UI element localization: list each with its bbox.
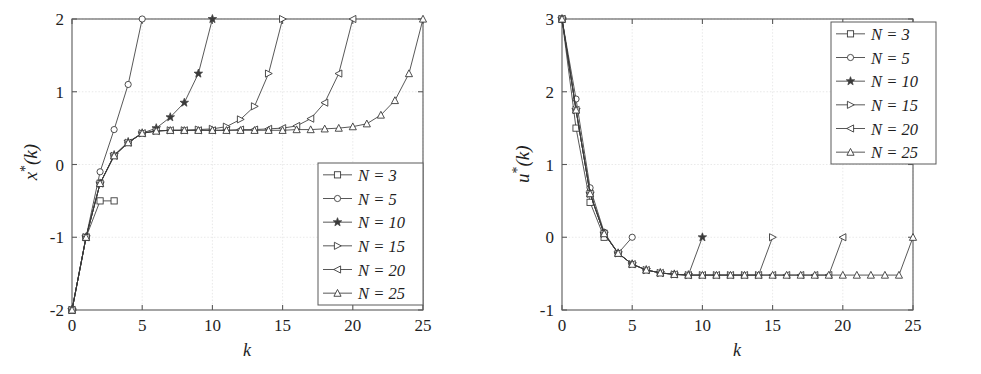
- series-line: [72, 201, 114, 310]
- marker-circle-icon: [847, 54, 853, 60]
- y-label-arg: (k): [512, 145, 533, 166]
- marker-star-icon: [180, 98, 189, 106]
- x-tick-label: 25: [415, 316, 432, 335]
- legend-label: N = 15: [870, 96, 918, 115]
- legend-label: N = 10: [357, 213, 406, 232]
- y-tick-label: 3: [546, 10, 555, 29]
- legend-label: N = 20: [870, 120, 919, 139]
- marker-circle-icon: [334, 195, 340, 201]
- marker-square-icon: [97, 198, 103, 204]
- x-tick-label: 5: [628, 316, 637, 335]
- y-label-base: u: [512, 173, 533, 183]
- x-axis-label-left: k: [172, 340, 322, 361]
- x-axis-label-right: k: [662, 340, 812, 361]
- marker-circle-icon: [139, 16, 145, 22]
- marker-triangle-left-icon: [335, 70, 342, 77]
- figure-root: 0510152025-2-1012N = 3N = 5N = 10N = 15N…: [0, 0, 981, 374]
- y-tick-label: -1: [540, 301, 554, 320]
- plot-area-right: 0510152025-10123N = 3N = 5N = 10N = 15N …: [490, 0, 981, 374]
- y-axis-label-right: u*(k): [510, 124, 534, 204]
- y-label-base: x: [20, 172, 41, 180]
- y-tick-label: 0: [56, 156, 65, 175]
- marker-triangle-up-icon: [363, 120, 370, 127]
- y-tick-label: 2: [546, 83, 555, 102]
- marker-circle-icon: [125, 81, 131, 87]
- marker-star-icon: [698, 233, 707, 241]
- marker-triangle-up-icon: [405, 70, 412, 77]
- legend-label: N = 15: [357, 237, 405, 256]
- legend-label: N = 3: [870, 25, 910, 44]
- marker-circle-icon: [629, 234, 635, 240]
- legend-label: N = 25: [357, 284, 405, 303]
- legend-label: N = 5: [870, 49, 910, 68]
- x-tick-label: 20: [344, 316, 361, 335]
- y-tick-label: 0: [546, 228, 555, 247]
- marker-circle-icon: [111, 126, 117, 132]
- marker-star-icon: [194, 69, 203, 77]
- x-tick-label: 15: [764, 316, 781, 335]
- legend-label: N = 25: [870, 143, 918, 162]
- series-line: [562, 19, 773, 275]
- series-line: [562, 19, 604, 237]
- legend-label: N = 5: [357, 190, 397, 209]
- marker-circle-icon: [97, 169, 103, 175]
- legend-label: N = 10: [870, 72, 919, 91]
- data-series: [559, 16, 607, 240]
- marker-triangle-right-icon: [251, 103, 258, 110]
- x-tick-label: 15: [274, 316, 291, 335]
- y-tick-label: -1: [50, 228, 64, 247]
- y-tick-label: -2: [50, 301, 64, 320]
- legend-label: N = 20: [357, 261, 406, 280]
- marker-square-icon: [847, 31, 853, 37]
- series-line: [562, 19, 632, 253]
- marker-triangle-up-icon: [391, 97, 398, 104]
- x-tick-label: 20: [834, 316, 851, 335]
- chart-panel-right: 0510152025-10123N = 3N = 5N = 10N = 15N …: [490, 0, 981, 374]
- y-tick-label: 1: [56, 83, 65, 102]
- marker-square-icon: [334, 172, 340, 178]
- plot-area-left: 0510152025-2-1012N = 3N = 5N = 10N = 15N…: [0, 0, 490, 374]
- marker-triangle-left-icon: [307, 115, 314, 122]
- legend-label: N = 3: [357, 166, 397, 185]
- x-tick-label: 0: [68, 316, 77, 335]
- marker-square-icon: [111, 198, 117, 204]
- y-label-star: *: [18, 165, 33, 172]
- y-tick-label: 1: [546, 156, 555, 175]
- marker-square-icon: [573, 125, 579, 131]
- data-series: [69, 198, 117, 313]
- chart-panel-left: 0510152025-2-1012N = 3N = 5N = 10N = 15N…: [0, 0, 490, 374]
- chart-legend[interactable]: N = 3N = 5N = 10N = 15N = 20N = 25: [831, 22, 936, 164]
- chart-legend[interactable]: N = 3N = 5N = 10N = 15N = 20N = 25: [318, 163, 423, 305]
- x-tick-label: 25: [905, 316, 922, 335]
- y-tick-label: 2: [56, 10, 65, 29]
- y-label-star: *: [510, 167, 525, 174]
- x-tick-label: 5: [138, 316, 147, 335]
- y-axis-label-left: x*(k): [18, 122, 42, 202]
- x-tick-label: 0: [558, 316, 567, 335]
- data-series: [559, 15, 776, 278]
- x-tick-label: 10: [204, 316, 221, 335]
- x-tick-label: 10: [694, 316, 711, 335]
- y-label-arg: (k): [20, 144, 41, 165]
